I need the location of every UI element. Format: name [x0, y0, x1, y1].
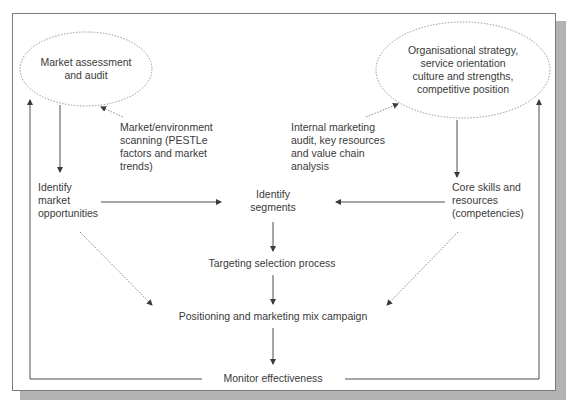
dotted-arrow-scanning-to-assessment [101, 107, 123, 117]
node-text-line: Identify [250, 188, 296, 201]
node-text-line: analysis [291, 160, 385, 173]
node-text-line: market [38, 194, 98, 207]
node-text-line: Market assessment [40, 56, 131, 69]
node-text-line: resources [452, 194, 524, 207]
node-text-line: Organisational strategy, [408, 44, 518, 57]
node-text-line: service orientation [408, 57, 518, 70]
node-text-line: Identify [38, 181, 98, 194]
node-text-line: audit, key resources [291, 134, 385, 147]
node-market-scanning: Market/environment scanning (PESTLe fact… [120, 121, 213, 173]
node-internal-audit: Internal marketing audit, key resources … [291, 121, 385, 173]
node-text-line: factors and market [120, 147, 213, 160]
node-text-line: segments [250, 201, 296, 214]
node-text-line: Core skills and [452, 181, 524, 194]
node-positioning: Positioning and marketing mix campaign [179, 310, 368, 323]
node-identify-segments: Identify segments [250, 188, 296, 214]
dotted-arrow-internal-to-org [366, 104, 398, 117]
node-text-line: competitive position [408, 83, 518, 96]
node-text-line: Internal marketing [291, 121, 385, 134]
node-org-strategy: Organisational strategy, service orienta… [408, 44, 518, 96]
node-text-line: opportunities [38, 207, 98, 220]
node-text-line: (competencies) [452, 207, 524, 220]
node-market-assessment: Market assessment and audit [40, 56, 131, 82]
node-monitor: Monitor effectiveness [223, 372, 322, 385]
dotted-arrow-opportunities-to-positioning [80, 232, 152, 305]
dotted-arrow-core-to-positioning [387, 232, 458, 305]
node-core-skills: Core skills and resources (competencies) [452, 181, 524, 220]
node-text-line: scanning (PESTLe [120, 134, 213, 147]
node-identify-opportunities: Identify market opportunities [38, 181, 98, 220]
node-text-line: and value chain [291, 147, 385, 160]
node-text-line: Market/environment [120, 121, 213, 134]
node-text-line: culture and strengths, [408, 70, 518, 83]
node-text-line: and audit [40, 69, 131, 82]
node-targeting: Targeting selection process [208, 257, 335, 270]
node-text-line: trends) [120, 160, 213, 173]
